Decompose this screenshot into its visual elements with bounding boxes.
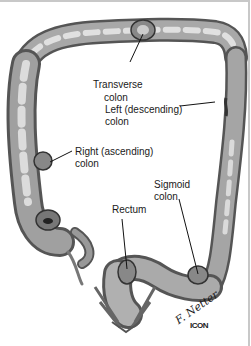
- label-transverse-colon: Transverse colon: [93, 79, 143, 103]
- publisher-logo: ICON: [190, 320, 208, 331]
- label-sigmoid-colon: Sigmoid colon: [154, 179, 190, 202]
- label-transverse-line2: colon: [93, 92, 143, 103]
- label-rectum: Rectum: [112, 204, 146, 215]
- label-sigmoid-line2: colon: [154, 191, 190, 202]
- label-transverse-line1: Transverse: [93, 79, 143, 90]
- label-left-descending-colon: Left (descending) colon: [105, 104, 182, 127]
- label-right-line2: colon: [75, 158, 153, 169]
- illustration-frame: Transverse colon Left (descending) colon…: [0, 0, 250, 346]
- label-sigmoid-line1: Sigmoid: [154, 179, 190, 190]
- label-left-line2: colon: [105, 116, 182, 127]
- label-right-line1: Right (ascending): [75, 146, 153, 157]
- label-right-ascending-colon: Right (ascending) colon: [75, 146, 153, 169]
- label-left-line1: Left (descending): [105, 104, 182, 115]
